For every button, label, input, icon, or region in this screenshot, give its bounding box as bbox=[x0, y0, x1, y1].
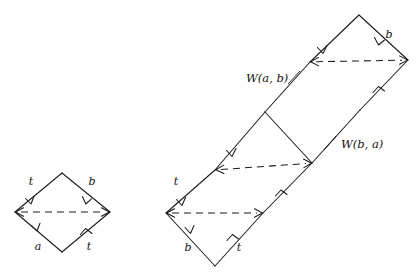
bottom-left-square: t b t bbox=[166, 170, 263, 266]
label-top-right-b: b bbox=[88, 175, 95, 188]
edge-connector-upper-left bbox=[265, 62, 310, 112]
arrow-bl-left-bottom bbox=[185, 226, 194, 234]
w-b-a-leader bbox=[324, 136, 336, 150]
diagonal-mid-dashed bbox=[221, 164, 306, 170]
annotation-w-a-b: W(a, b) bbox=[246, 71, 300, 85]
label-bl-t-upper: t bbox=[174, 175, 179, 188]
diagonal-bl-arrow-right bbox=[255, 209, 263, 217]
label-left-bottom-a: a bbox=[35, 240, 42, 253]
top-right-square: b bbox=[310, 15, 408, 110]
arrow-bl-left-top bbox=[177, 198, 186, 206]
edge-tr-bottom-right bbox=[360, 60, 408, 110]
label-tr-b: b bbox=[385, 28, 392, 41]
left-single-square: t b a t bbox=[15, 173, 110, 253]
diagonal-tr-dashed bbox=[316, 60, 402, 62]
edge-mid-bottom-right bbox=[263, 163, 312, 213]
w-a-b-leader bbox=[288, 71, 300, 84]
w-b-a-text: W(b, a) bbox=[341, 137, 383, 151]
edge-bl-bottom-right bbox=[215, 213, 263, 266]
edge-tr-left-top bbox=[310, 15, 359, 62]
edge-bl-left-bottom bbox=[166, 213, 215, 266]
arrow-left-bottom bbox=[32, 223, 41, 231]
right-square-chain: t b t bbox=[166, 15, 408, 266]
label-bl-t-lower: t bbox=[237, 241, 242, 254]
edge-tr-top-right bbox=[359, 15, 408, 60]
label-left-top-t: t bbox=[29, 175, 34, 188]
edge-mid-left-top bbox=[215, 112, 265, 170]
w-a-b-text: W(a, b) bbox=[246, 71, 288, 85]
diagonal-arrow-right bbox=[102, 208, 110, 216]
geometric-diagram: t b a t t b t bbox=[0, 0, 420, 280]
annotation-w-b-a: W(b, a) bbox=[324, 136, 383, 151]
middle-square bbox=[215, 112, 312, 213]
label-bottom-right-t: t bbox=[87, 240, 92, 253]
edge-mid-top-right bbox=[265, 112, 312, 163]
arrow-tr-bottom-right bbox=[373, 87, 385, 93]
arrow-top-right bbox=[83, 197, 92, 205]
edge-left-top bbox=[15, 173, 62, 212]
arrow-bl-bottom-right bbox=[227, 235, 239, 241]
label-bl-b: b bbox=[184, 241, 191, 254]
arrow-tr-top-right bbox=[375, 38, 385, 46]
diagonal-mid-arrow-right bbox=[304, 159, 312, 168]
edge-top-right bbox=[62, 173, 110, 212]
